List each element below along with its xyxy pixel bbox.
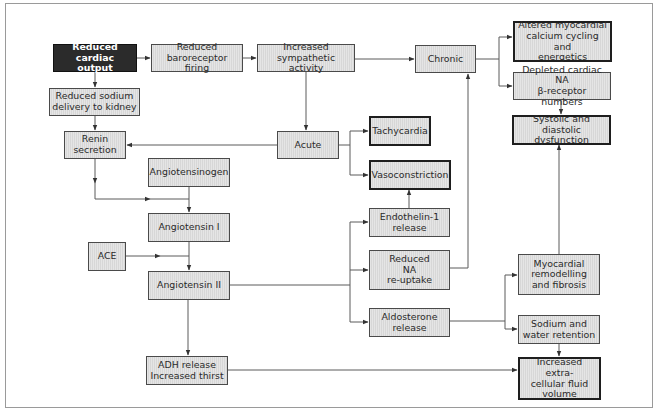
node-adh-release: ADH release Increased thirst	[146, 356, 228, 385]
node-angiotensinogen: Angiotensinogen	[148, 158, 230, 187]
node-reduced-cardiac-output: Reduced cardiac output	[53, 44, 137, 72]
node-systolic-diastolic-dysfunction: Systolic and diastolic dysfunction	[512, 115, 611, 145]
arrow-chronic-branch	[476, 37, 512, 59]
node-increased-ecf-volume: Increased extra- cellular fluid volume	[518, 357, 601, 400]
arrow-na-reuptake-to-chronic	[450, 74, 468, 268]
node-angiotensin-2: Angiotensin II	[148, 271, 230, 300]
node-vasoconstriction: Vasoconstriction	[369, 160, 451, 190]
node-ace: ACE	[88, 242, 126, 271]
node-reduced-baroreceptor-firing: Reduced baroreceptor firing	[151, 44, 243, 72]
node-increased-sympathetic-activity: Increased sympathetic activity	[257, 44, 355, 72]
node-altered-myocardial-calcium: Altered myocardial calcium cycling and e…	[513, 21, 612, 62]
arrow-to-endothelin	[350, 222, 368, 322]
node-aldosterone-release: Aldosterone release	[369, 308, 450, 337]
arrow-renin-to-junction	[95, 183, 150, 199]
arrow-acute-to-tachycardia	[339, 131, 368, 145]
node-chronic: Chronic	[415, 45, 476, 73]
node-reduced-na-reuptake: Reduced NA re-uptake	[369, 250, 450, 290]
arrow-acute-to-vasoconstriction	[350, 145, 368, 175]
node-sodium-water-retention: Sodium and water retention	[518, 315, 600, 344]
node-endothelin-1-release: Endothelin-1 release	[369, 208, 450, 237]
node-renin-secretion: Renin secretion	[64, 131, 126, 159]
node-myocardial-remodelling: Myocardial remodelling and fibrosis	[518, 254, 600, 295]
arrow-chronic-to-depleted	[499, 59, 512, 86]
node-depleted-cardiac-na: Depleted cardiac NA β-receptor numbers	[513, 72, 611, 100]
arrow-aldosterone-to-remodelling	[505, 275, 517, 321]
node-tachycardia: Tachycardia	[369, 116, 431, 146]
node-angiotensin-1: Angiotensin I	[148, 213, 230, 242]
node-acute: Acute	[277, 131, 339, 159]
node-reduced-sodium-delivery: Reduced sodium delivery to kidney	[49, 88, 140, 116]
arrow-aldosterone-to-sodium-water	[505, 321, 517, 329]
